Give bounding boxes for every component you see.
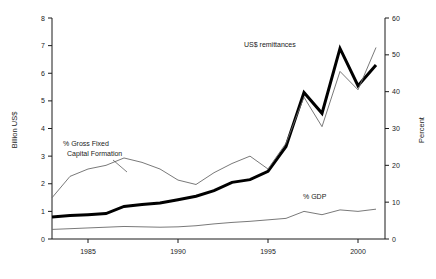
y-axis-left-tick-label: 3 [41, 153, 45, 160]
y-axis-right-tick-label: 20 [392, 162, 400, 169]
series-line-gdp [52, 209, 376, 229]
y-axis-left-tick-label: 4 [41, 125, 45, 132]
series-line-us-remittances [52, 48, 376, 217]
y-axis-right-tick-label: 10 [392, 199, 400, 206]
series-line-gross-fixed-capital-formation [52, 47, 376, 197]
y-axis-right-tick-label: 50 [392, 51, 400, 58]
series-label-us-remittances: US$ remittances [244, 41, 296, 48]
y-axis-right-tick-label: 30 [392, 125, 400, 132]
chart-container: 012345678 0102030405060 1985199019952000… [0, 0, 436, 279]
y-axis-left-tick-label: 2 [41, 180, 45, 187]
y-axis-right-tick-label: 40 [392, 88, 400, 95]
x-axis-tick-label: 2000 [350, 248, 366, 255]
data-series [52, 47, 376, 229]
x-axis-tick-label: 1990 [170, 248, 186, 255]
y-axis-left-tick-label: 1 [41, 208, 45, 215]
y-axis-right-tick-label: 0 [392, 236, 396, 243]
y-axis-left-tick-label: 7 [41, 42, 45, 49]
series-label-gfcf-line1: % Gross Fixed [63, 140, 109, 147]
x-axis-tick-label: 1995 [260, 248, 276, 255]
x-axis-tick-label: 1985 [80, 248, 96, 255]
axes [52, 18, 385, 239]
y-axis-right-tick-label: 60 [392, 15, 400, 22]
y-axis-left-ticks: 012345678 [41, 15, 52, 243]
gfcf-leader-line [113, 160, 127, 172]
y-axis-left-tick-label: 8 [41, 15, 45, 22]
remittances-line-chart: 012345678 0102030405060 1985199019952000… [0, 0, 436, 279]
y-axis-left-title: Billion US$ [10, 111, 19, 149]
x-axis-ticks: 1985199019952000 [80, 239, 366, 255]
series-label-gfcf-line2: Capital Formation [67, 150, 122, 158]
y-axis-left-tick-label: 6 [41, 70, 45, 77]
y-axis-right-title: Percent [417, 116, 426, 143]
y-axis-left-tick-label: 0 [41, 236, 45, 243]
y-axis-right-ticks: 0102030405060 [385, 15, 400, 243]
series-label-gdp: % GDP [303, 193, 327, 200]
y-axis-left-tick-label: 5 [41, 97, 45, 104]
